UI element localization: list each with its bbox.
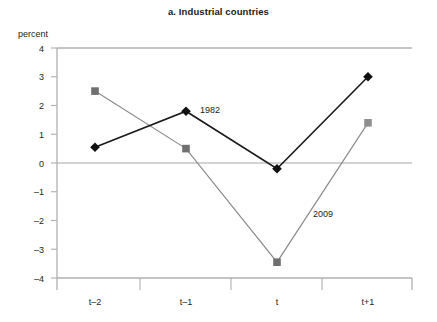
y-tick-label-m2: –2 xyxy=(34,216,44,226)
series-marker-2009-t-plus-1 xyxy=(364,119,372,127)
series-marker-1982-t-minus-2 xyxy=(90,142,100,152)
series-marker-1982-t-minus-1 xyxy=(181,106,191,116)
series-marker-2009-t xyxy=(273,258,281,266)
y-tick-label-2: 2 xyxy=(39,101,44,111)
chart-figure: a. Industrial countries percent 4 3 2 1 … xyxy=(0,0,437,322)
y-tick-label-4: 4 xyxy=(39,44,44,54)
series-annotation-1982: 1982 xyxy=(200,105,220,115)
x-tick-label-t-minus-2: t–2 xyxy=(89,297,102,307)
y-tick-label-m3: –3 xyxy=(34,245,44,255)
series-annotation-2009: 2009 xyxy=(313,209,333,219)
y-tick-label-m4: –4 xyxy=(34,274,44,284)
series-marker-2009-t-minus-1 xyxy=(182,145,190,153)
y-tick-label-3: 3 xyxy=(39,72,44,82)
series-line-1982 xyxy=(95,77,368,169)
y-tick-label-0: 0 xyxy=(39,159,44,169)
x-tick-label-t-minus-1: t–1 xyxy=(180,297,193,307)
x-tick-label-t-plus-1: t+1 xyxy=(362,297,375,307)
plot-area: 4 3 2 1 0 –1 –2 –3 –4 t–2 t–1 t t+1 1982… xyxy=(0,0,437,322)
series-marker-2009-t-minus-2 xyxy=(91,87,99,95)
x-tick-label-t: t xyxy=(276,297,279,307)
y-tick-label-m1: –1 xyxy=(34,187,44,197)
y-tick-label-1: 1 xyxy=(39,130,44,140)
series-line-2009 xyxy=(95,91,368,262)
